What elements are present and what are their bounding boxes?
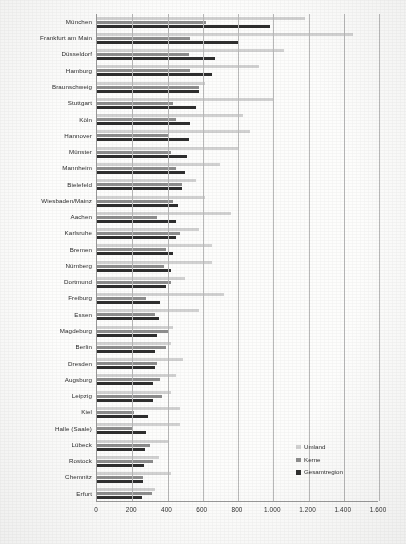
bar-gesamtregion — [97, 220, 176, 223]
bar-chart: MünchenFrankfurt am MainDüsseldorfHambur… — [0, 0, 406, 544]
category-label: Leipzig — [0, 393, 92, 399]
gridline-1000 — [273, 14, 274, 501]
bar-gesamtregion — [97, 382, 153, 385]
bar-umland — [97, 228, 199, 231]
category-label: Magdeburg — [0, 328, 92, 334]
category-label: Dresden — [0, 361, 92, 367]
category-label: Frankfurt am Main — [0, 35, 92, 41]
bar-umland — [97, 277, 185, 280]
xtick-label-1000: 1.000 — [264, 506, 281, 513]
xtick-label-1400: 1.400 — [334, 506, 351, 513]
category-label: Erfurt — [0, 491, 92, 497]
legend-label-gesamtregion: Gesamtregion — [304, 469, 343, 475]
xtick-label-800: 800 — [231, 506, 242, 513]
category-label: Rostock — [0, 458, 92, 464]
bar-umland — [97, 472, 171, 475]
legend-swatch-kerne — [296, 458, 301, 463]
bar-kerne — [97, 69, 190, 72]
bar-umland — [97, 212, 231, 215]
bar-gesamtregion — [97, 480, 143, 483]
xtick-label-600: 600 — [196, 506, 207, 513]
bar-umland — [97, 391, 171, 394]
gridline-800 — [238, 14, 239, 501]
bar-kerne — [97, 444, 150, 447]
bar-umland — [97, 358, 183, 361]
legend-swatch-umland — [296, 445, 301, 450]
gridline-1600 — [379, 14, 380, 501]
bar-gesamtregion — [97, 317, 159, 320]
bar-umland — [97, 82, 205, 85]
category-label: Chemnitz — [0, 474, 92, 480]
gridline-400 — [168, 14, 169, 501]
bar-gesamtregion — [97, 464, 144, 467]
xtick-label-1200: 1.200 — [299, 506, 316, 513]
category-label: Wiesbaden/Mainz — [0, 198, 92, 204]
category-label: Lübeck — [0, 442, 92, 448]
bar-gesamtregion — [97, 301, 160, 304]
bar-umland — [97, 179, 196, 182]
bar-kerne — [97, 167, 176, 170]
bar-umland — [97, 33, 353, 36]
bar-kerne — [97, 395, 162, 398]
bar-umland — [97, 49, 284, 52]
bar-gesamtregion — [97, 366, 155, 369]
bar-kerne — [97, 200, 173, 203]
bar-kerne — [97, 362, 157, 365]
bar-kerne — [97, 297, 146, 300]
bar-gesamtregion — [97, 122, 190, 125]
category-label: Essen — [0, 312, 92, 318]
xtick-label-1600: 1.600 — [370, 506, 387, 513]
bar-gesamtregion — [97, 431, 146, 434]
bar-umland — [97, 293, 224, 296]
bar-kerne — [97, 427, 132, 430]
bar-umland — [97, 130, 250, 133]
bar-gesamtregion — [97, 252, 173, 255]
bar-kerne — [97, 118, 176, 121]
bar-gesamtregion — [97, 496, 142, 499]
legend-item-umland: Umland — [296, 444, 343, 450]
bar-kerne — [97, 37, 190, 40]
category-label: München — [0, 19, 92, 25]
bar-umland — [97, 456, 159, 459]
legend-label-kerne: Kerne — [304, 457, 321, 463]
legend-item-kerne: Kerne — [296, 457, 343, 463]
bar-umland — [97, 244, 212, 247]
bar-gesamtregion — [97, 171, 185, 174]
bar-kerne — [97, 102, 173, 105]
bar-kerne — [97, 21, 206, 24]
bar-gesamtregion — [97, 350, 155, 353]
category-label: Hamburg — [0, 68, 92, 74]
bar-umland — [97, 342, 171, 345]
bar-kerne — [97, 460, 153, 463]
bar-gesamtregion — [97, 415, 148, 418]
bar-umland — [97, 488, 155, 491]
bar-kerne — [97, 492, 152, 495]
bar-kerne — [97, 411, 134, 414]
value-axis-labels: 02004006008001.0001.2001.4001.600 — [0, 504, 406, 520]
bar-umland — [97, 374, 176, 377]
bar-umland — [97, 309, 199, 312]
bar-gesamtregion — [97, 106, 196, 109]
bar-gesamtregion — [97, 187, 182, 190]
category-label: Nürnberg — [0, 263, 92, 269]
bar-kerne — [97, 216, 157, 219]
category-label: Kiel — [0, 409, 92, 415]
category-label: Bielefeld — [0, 182, 92, 188]
bar-gesamtregion — [97, 155, 187, 158]
bar-kerne — [97, 151, 171, 154]
category-label: Dortmund — [0, 279, 92, 285]
xtick-label-0: 0 — [94, 506, 98, 513]
bar-kerne — [97, 265, 164, 268]
category-label: Mannheim — [0, 165, 92, 171]
xtick-label-200: 200 — [126, 506, 137, 513]
bar-kerne — [97, 86, 199, 89]
bar-kerne — [97, 313, 155, 316]
chart-legend: Umland Kerne Gesamtregion — [296, 444, 343, 482]
category-label: Bremen — [0, 247, 92, 253]
bar-kerne — [97, 183, 182, 186]
category-label: Karlsruhe — [0, 230, 92, 236]
gridline-200 — [132, 14, 133, 501]
legend-swatch-gesamtregion — [296, 470, 301, 475]
category-label: Berlin — [0, 344, 92, 350]
bar-umland — [97, 326, 173, 329]
